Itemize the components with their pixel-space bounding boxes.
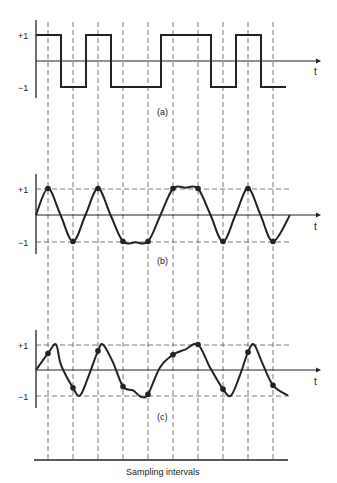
caption-c: (c)	[157, 412, 168, 422]
sample-point	[195, 342, 201, 348]
sample-point	[245, 349, 251, 355]
sample-point	[270, 239, 276, 245]
t-label-a: t	[314, 66, 317, 77]
panel-a: t +1 −1 (a)	[18, 20, 321, 117]
t-axis-arrow-c	[316, 368, 321, 373]
sample-point	[45, 351, 51, 357]
panel-b: t +1 −1 (b)	[18, 174, 321, 266]
caption-b: (b)	[157, 256, 168, 266]
sample-point	[145, 391, 151, 397]
tick-plus1-c: +1	[18, 341, 28, 351]
sample-point	[70, 239, 76, 245]
tick-minus1-a: −1	[18, 83, 28, 93]
sample-point	[145, 239, 151, 245]
sample-point	[95, 348, 101, 354]
sample-point	[195, 186, 201, 192]
sample-point	[120, 384, 126, 390]
sample-point	[170, 352, 176, 358]
sample-point	[70, 385, 76, 391]
sample-point	[220, 239, 226, 245]
sample-point	[120, 239, 126, 245]
t-label-b: t	[314, 221, 317, 232]
sampling-intervals-label: Sampling intervals	[126, 467, 200, 477]
sample-point	[45, 186, 51, 192]
line-coding-figure: t +1 −1 (a) t +1 −1 (b) t +1 −1 (c) Samp…	[0, 0, 337, 483]
sample-point	[245, 186, 251, 192]
t-axis-arrow-a	[316, 59, 321, 64]
tick-plus1-a: +1	[18, 31, 28, 41]
tick-minus1-b: −1	[18, 238, 28, 248]
sample-point	[95, 186, 101, 192]
tick-minus1-c: −1	[18, 392, 28, 402]
sample-point	[270, 383, 276, 389]
tick-plus1-b: +1	[18, 185, 28, 195]
sample-point	[170, 186, 176, 192]
panel-c: t +1 −1 (c)	[18, 330, 321, 422]
sample-point	[220, 386, 226, 392]
t-axis-arrow-b	[316, 213, 321, 218]
caption-a: (a)	[157, 107, 168, 117]
t-label-c: t	[314, 376, 317, 387]
